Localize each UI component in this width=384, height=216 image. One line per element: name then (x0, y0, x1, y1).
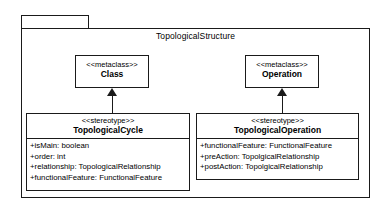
metaclass-operation-stereotype: <<metaclass>> (248, 60, 316, 69)
attribute-row: +functionalFeature: FunctionalFeature (30, 173, 189, 184)
attribute-row: +postAction: TopolgicalRelationship (200, 162, 358, 173)
topologicaloperation-stereotype: <<stereotype>> (199, 116, 356, 125)
attribute-row: +preAction: TopolgicalRelationship (200, 152, 358, 163)
package-tab (21, 15, 89, 28)
generalization-arrowhead-icon (107, 88, 117, 96)
stereotype-box-topologicaloperation[interactable]: <<stereotype>> TopologicalOperation +fun… (196, 113, 359, 180)
topologicaloperation-attributes: +functionalFeature: FunctionalFeature +p… (197, 138, 358, 175)
package-title: TopologicalStructure (21, 31, 370, 42)
metaclass-operation-name: Operation (248, 69, 316, 79)
metaclass-box-operation[interactable]: <<metaclass>> Operation (245, 55, 319, 88)
attribute-row: +relationship: TopologicalRelationship (30, 162, 189, 173)
topologicalcycle-stereotype: <<stereotype>> (29, 116, 187, 125)
attribute-row: +order: int (30, 152, 189, 163)
metaclass-class-header: <<metaclass>> Class (76, 56, 148, 82)
generalization-line (112, 96, 113, 113)
topologicaloperation-name: TopologicalOperation (199, 125, 356, 135)
metaclass-operation-header: <<metaclass>> Operation (246, 56, 318, 82)
topologicalcycle-attributes: +isMain: boolean +order: int +relationsh… (27, 138, 189, 185)
topologicalcycle-name: TopologicalCycle (29, 125, 187, 135)
attribute-row: +functionalFeature: FunctionalFeature (200, 141, 358, 152)
generalization-line (282, 96, 283, 113)
metaclass-class-stereotype: <<metaclass>> (78, 60, 146, 69)
uml-diagram-canvas: TopologicalStructure <<metaclass>> Class… (0, 0, 384, 216)
topologicaloperation-header: <<stereotype>> TopologicalOperation (197, 114, 358, 138)
topologicalcycle-header: <<stereotype>> TopologicalCycle (27, 114, 189, 138)
attribute-row: +isMain: boolean (30, 141, 189, 152)
metaclass-box-class[interactable]: <<metaclass>> Class (75, 55, 149, 88)
stereotype-box-topologicalcycle[interactable]: <<stereotype>> TopologicalCycle +isMain:… (26, 113, 190, 191)
generalization-arrowhead-icon (277, 88, 287, 96)
metaclass-class-name: Class (78, 69, 146, 79)
